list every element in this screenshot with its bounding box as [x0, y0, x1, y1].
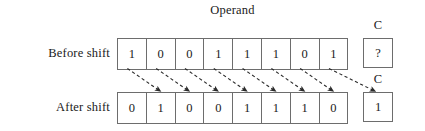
row-label-before-shift: Before shift [0, 45, 110, 61]
operand-row-before-shift: 1 0 0 1 1 1 0 1 [117, 38, 348, 70]
shift-arrow [243, 69, 276, 92]
shift-operation-diagram: Operand C C Before shift After shift 1 0… [0, 0, 425, 131]
bit-cell: 1 [262, 93, 291, 123]
bit-cell: 1 [320, 39, 349, 69]
carry-box-after-shift: 1 [363, 92, 393, 122]
shift-arrow [156, 69, 189, 92]
operand-row-after-shift: 0 1 0 0 1 1 1 0 [117, 92, 348, 124]
bit-cell: 0 [204, 93, 233, 123]
carry-label-before: C [363, 18, 393, 32]
shift-arrow-set [127, 69, 375, 92]
carry-box-before-shift: ? [363, 38, 393, 68]
bit-cell: 1 [262, 39, 291, 69]
row-label-after-shift: After shift [0, 99, 110, 115]
shift-arrow [127, 69, 160, 92]
bit-cell: 0 [320, 93, 349, 123]
operand-title: Operand [117, 2, 348, 18]
shift-arrow [185, 69, 218, 92]
bit-cell: 0 [118, 93, 147, 123]
bit-cell: 1 [147, 93, 176, 123]
shift-arrow [300, 69, 333, 92]
bit-cell: 0 [176, 39, 205, 69]
bit-cell: 0 [176, 93, 205, 123]
bit-cell: 1 [204, 39, 233, 69]
bit-cell: 0 [147, 39, 176, 69]
bit-cell: 1 [233, 39, 262, 69]
carry-label-after: C [363, 72, 393, 86]
bit-cell: 0 [291, 39, 320, 69]
bit-cell: 1 [291, 93, 320, 123]
shift-arrow [271, 69, 304, 92]
bit-cell: 1 [233, 93, 262, 123]
bit-cell: 1 [118, 39, 147, 69]
shift-arrow [214, 69, 247, 92]
